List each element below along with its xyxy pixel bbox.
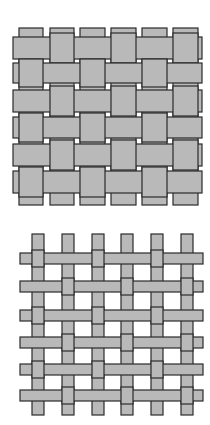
vertical-strip-over: [62, 278, 74, 295]
vertical-strip-over: [32, 250, 44, 267]
vertical-strip-over: [19, 59, 43, 87]
plain-weave-diagram: [0, 212, 210, 425]
vertical-strip-over: [142, 59, 167, 87]
horizontal-strip: [20, 310, 203, 321]
vertical-strip-over: [50, 140, 74, 170]
vertical-strip-over: [173, 33, 198, 63]
vertical-strip-over: [92, 250, 104, 267]
vertical-strip-over: [181, 387, 193, 404]
horizontal-strip: [20, 253, 203, 264]
vertical-strip-over: [121, 334, 133, 351]
vertical-strip-over: [62, 387, 74, 404]
vertical-strip-over: [32, 361, 44, 378]
vertical-strip-over: [80, 167, 105, 197]
vertical-strip-over: [151, 307, 163, 324]
vertical-strip-over: [111, 33, 136, 63]
vertical-strip-over: [181, 334, 193, 351]
vertical-strip-over: [92, 307, 104, 324]
horizontal-strip: [20, 337, 203, 348]
vertical-strip-over: [173, 140, 198, 170]
vertical-strip-over: [181, 278, 193, 295]
vertical-strip-over: [62, 334, 74, 351]
vertical-strip-over: [19, 167, 43, 197]
vertical-strip-over: [142, 113, 167, 142]
vertical-strip-over: [173, 86, 198, 116]
vertical-strip-over: [151, 361, 163, 378]
vertical-strip-over: [111, 140, 136, 170]
vertical-strip-over: [121, 387, 133, 404]
vertical-strip-over: [19, 113, 43, 142]
vertical-strip-over: [80, 59, 105, 87]
vertical-strip-over: [111, 86, 136, 116]
vertical-strip-over: [50, 33, 74, 63]
vertical-strip-over: [151, 250, 163, 267]
vertical-strip-over: [80, 113, 105, 142]
horizontal-strip: [20, 364, 203, 375]
basket-weave-diagram: [0, 0, 210, 212]
vertical-strip-over: [50, 86, 74, 116]
vertical-strip-over: [92, 361, 104, 378]
horizontal-strip: [20, 281, 203, 292]
vertical-strip-over: [32, 307, 44, 324]
horizontal-strip: [20, 390, 203, 401]
vertical-strip-over: [121, 278, 133, 295]
vertical-strip-over: [142, 167, 167, 197]
